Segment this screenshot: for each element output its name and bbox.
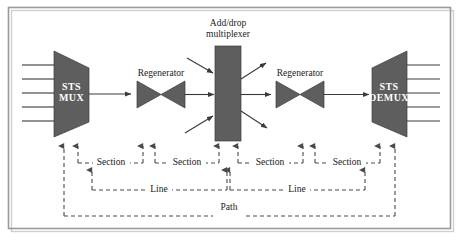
adm-caption-line2: multiplexer <box>206 29 251 39</box>
regenerator-right-caption: Regenerator <box>277 68 324 78</box>
sts-mux-label-line2: MUX <box>59 92 84 103</box>
section-span-3: Section <box>238 146 303 167</box>
output-tributaries <box>407 65 440 121</box>
add-signal-arrow-lower <box>185 116 213 133</box>
section-span-4: Section <box>315 146 380 167</box>
line-span-1: Line <box>92 170 227 194</box>
section-span-2: Section <box>155 146 219 167</box>
add-signal-arrow-upper <box>187 58 213 73</box>
section-3-label: Section <box>256 157 285 167</box>
figure-root: STS MUX Regenerator Add/drop multiplexer… <box>0 0 460 242</box>
adm-shape[interactable] <box>215 46 241 141</box>
line-span-2: Line <box>230 170 365 194</box>
adm-caption-line1: Add/drop <box>210 18 247 28</box>
section-span-1: Section <box>78 146 143 167</box>
sts-demux-label-line1: STS <box>380 81 399 92</box>
path-label: Path <box>221 202 238 212</box>
line-2-label: Line <box>288 184 305 194</box>
sts-mux-label-line1: STS <box>62 81 81 92</box>
section-2-label: Section <box>173 157 202 167</box>
drop-signal-arrow-upper <box>241 63 266 79</box>
regenerator-right-shape[interactable] <box>276 81 324 108</box>
input-tributaries <box>22 65 54 121</box>
line-1-label: Line <box>150 184 167 194</box>
regenerator-left-caption: Regenerator <box>138 68 185 78</box>
sonet-layers-diagram: STS MUX Regenerator Add/drop multiplexer… <box>0 0 460 242</box>
section-1-label: Section <box>97 157 126 167</box>
sts-demux-label-line2: DEMUX <box>369 92 409 103</box>
drop-signal-arrow-lower <box>241 111 267 128</box>
regenerator-left-shape[interactable] <box>137 81 185 108</box>
section-4-label: Section <box>333 157 362 167</box>
